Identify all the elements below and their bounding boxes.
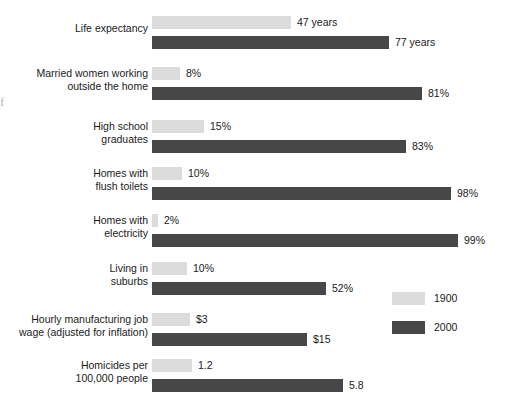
row-label: Hourly manufacturing job wage (adjusted … <box>0 313 148 338</box>
bar-1900 <box>152 67 180 80</box>
scan-artifact: f <box>0 96 5 108</box>
bar-value-label: $3 <box>196 313 208 327</box>
bar-1900 <box>152 167 182 180</box>
bar-1900 <box>152 262 187 275</box>
bar-2000 <box>152 282 326 295</box>
bar-2000 <box>152 234 458 247</box>
row-label: Life expectancy <box>0 22 148 35</box>
row-label: Homicides per 100,000 people <box>0 359 148 384</box>
legend-label-2000: 2000 <box>434 321 457 335</box>
bar-2000 <box>152 140 406 153</box>
row-label: Homes with electricity <box>0 214 148 239</box>
bar-1900 <box>152 313 190 326</box>
legend-swatch-1900-icon <box>392 292 425 305</box>
bar-value-label: 81% <box>428 87 449 101</box>
row-label: Married women working outside the home <box>0 67 148 92</box>
bar-value-label: 98% <box>457 187 478 201</box>
legend-swatch-2000-icon <box>392 321 425 334</box>
bar-1900 <box>152 214 158 227</box>
row-label: Homes with flush toilets <box>0 167 148 192</box>
bar-2000 <box>152 36 389 49</box>
bar-2000 <box>152 379 343 392</box>
bar-2000 <box>152 333 307 346</box>
bar-2000 <box>152 187 451 200</box>
bar-value-label: 10% <box>193 262 214 276</box>
bar-value-label: $15 <box>313 333 331 347</box>
bar-value-label: 77 years <box>395 36 435 50</box>
bar-value-label: 47 years <box>297 16 337 30</box>
bar-value-label: 2% <box>164 214 179 228</box>
comparison-bar-chart: f Life expectancy47 years77 yearsMarried… <box>0 0 507 409</box>
bar-1900 <box>152 16 291 29</box>
bar-1900 <box>152 359 192 372</box>
bar-1900 <box>152 120 204 133</box>
bar-value-label: 1.2 <box>198 359 213 373</box>
bar-value-label: 8% <box>186 67 201 81</box>
row-label: High school graduates <box>0 120 148 145</box>
bar-value-label: 15% <box>210 120 231 134</box>
bar-value-label: 52% <box>332 282 353 296</box>
bar-value-label: 99% <box>464 234 485 248</box>
bar-2000 <box>152 87 422 100</box>
bar-value-label: 10% <box>188 167 209 181</box>
bar-value-label: 83% <box>412 140 433 154</box>
bar-value-label: 5.8 <box>349 379 364 393</box>
legend-label-1900: 1900 <box>434 292 457 306</box>
row-label: Living in suburbs <box>0 262 148 287</box>
